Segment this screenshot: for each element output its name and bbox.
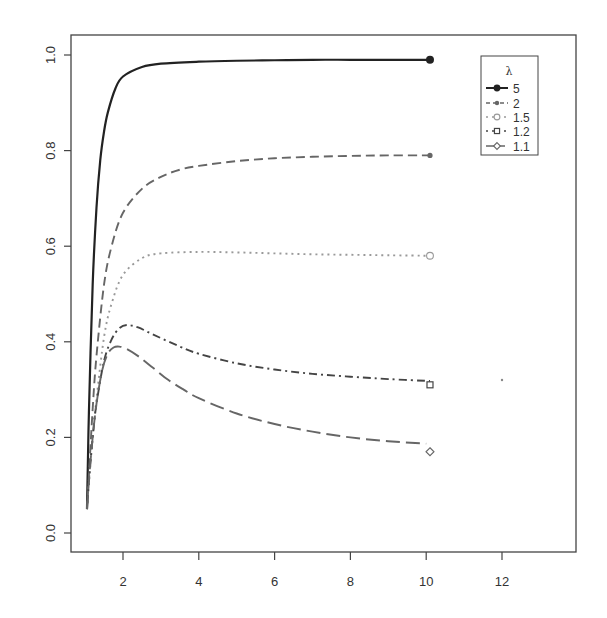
series-line-1-1 [87,346,426,509]
legend-label: 1.2 [513,125,530,139]
stray-point [501,379,503,381]
y-tick-label: 1.0 [43,46,58,64]
y-tick-label: 0.8 [43,142,58,160]
legend-label: 1.5 [513,111,530,125]
legend-label: 1.1 [513,140,530,154]
y-axis: 0.00.20.40.60.81.0 [43,46,71,542]
y-tick-label: 0.0 [43,524,58,542]
x-tick-label: 10 [419,574,433,589]
legend-label: 2 [513,97,520,111]
x-tick-label: 12 [495,574,509,589]
series-line-5 [87,60,430,509]
series-line-2 [87,155,430,509]
legend: λ 521.51.21.1 [481,56,538,155]
x-tick-label: 8 [347,574,354,589]
y-tick-label: 0.4 [43,333,58,351]
small-filled-circle-marker [427,153,432,158]
x-tick-label: 4 [195,574,202,589]
y-tick-label: 0.6 [43,237,58,255]
series-line-1-5 [87,252,430,509]
small-filled-circle-marker [495,101,499,105]
end-markers [426,56,434,456]
x-tick-label: 2 [119,574,126,589]
open-circle-marker [427,252,434,259]
open-square-marker [427,382,433,388]
annotations [501,379,503,381]
x-tick-label: 6 [271,574,278,589]
legend-label: 5 [513,82,520,96]
legend-title: λ [506,65,513,78]
open-circle-marker [494,114,500,120]
series-layer [87,60,430,509]
y-tick-label: 0.2 [43,428,58,446]
series-line-1-2 [87,325,430,509]
line-chart: 0.00.20.40.60.81.0 24681012 λ 521.51.21.… [0,0,607,618]
x-axis: 24681012 [119,552,509,589]
filled-circle-marker [426,56,434,64]
open-square-marker [494,128,499,133]
open-diamond-marker [426,448,434,456]
filled-circle-marker [494,85,501,92]
